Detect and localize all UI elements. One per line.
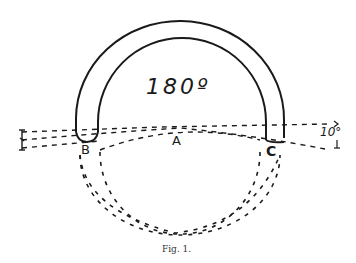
angle-label-10: 10° [320, 125, 341, 139]
point-label-a: A [172, 133, 181, 148]
figure: 180º B A C 10° Fig. 1. [0, 0, 356, 263]
rotated-horseshoe-dashed [80, 152, 280, 235]
point-label-b: B [81, 142, 90, 157]
point-label-c: C [266, 143, 276, 159]
diagram-drawing [0, 0, 356, 263]
angle-label-180: 180º [146, 74, 210, 99]
figure-caption: Fig. 1. [162, 244, 191, 254]
